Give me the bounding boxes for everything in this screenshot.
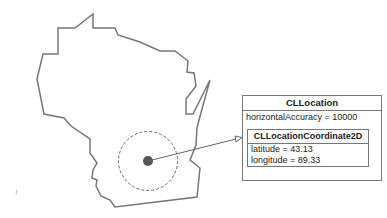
coordinate-box: CLLocationCoordinate2D latitude = 43.13 … xyxy=(247,129,369,167)
latitude-attr: latitude = 43.13 xyxy=(248,144,368,155)
longitude-attr: longitude = 89.33 xyxy=(248,155,368,166)
stray-mark xyxy=(16,190,17,194)
cllocation-title: CLLocation xyxy=(243,96,381,111)
cllocation-box: CLLocation horizontalAccuracy = 10000 CL… xyxy=(242,95,382,181)
arrow-head-icon xyxy=(235,136,242,142)
horizontal-accuracy-attr: horizontalAccuracy = 10000 xyxy=(243,111,381,124)
coordinate-title: CLLocationCoordinate2D xyxy=(248,130,368,144)
state-outline xyxy=(37,14,210,207)
pointer-arrow xyxy=(148,139,236,161)
